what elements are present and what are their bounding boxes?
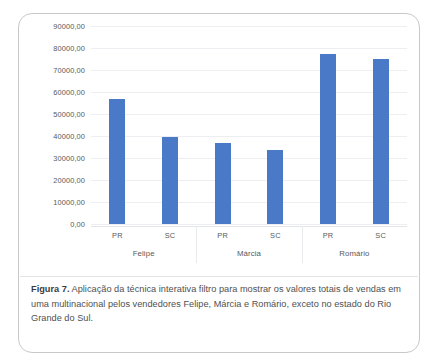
bar[interactable] (267, 150, 283, 224)
bar-slot (144, 26, 197, 224)
bar[interactable] (109, 99, 125, 224)
caption-divider (20, 276, 418, 277)
bar-series (91, 26, 407, 224)
x-axis-subcategory-label: PR (302, 226, 355, 243)
x-axis-category-label: Romário (302, 243, 407, 263)
y-axis: 90000,0080000,0070000,0060000,0050000,00… (31, 26, 89, 224)
y-axis-tick-label: 70000,00 (53, 66, 85, 75)
bar-slot (354, 26, 407, 224)
y-axis-tick-label: 30000,00 (53, 154, 85, 163)
figure-caption-text: Aplicação da técnica interativa filtro p… (31, 284, 401, 323)
y-axis-tick-label: 90000,00 (53, 22, 85, 31)
y-axis-tick-label: 50000,00 (53, 110, 85, 119)
bar[interactable] (320, 54, 336, 225)
figure-caption-label: Figura 7. (31, 284, 69, 294)
x-axis-subcategories: PRSCPRSCPRSC (91, 226, 407, 243)
bar[interactable] (373, 59, 389, 224)
x-axis-subcategory-label: SC (354, 226, 407, 243)
x-axis-subcategory-label: SC (249, 226, 302, 243)
x-axis-subcategory-label: PR (196, 226, 249, 243)
bar-slot (196, 26, 249, 224)
bar[interactable] (162, 137, 178, 224)
y-axis-tick-label: 0,00 (70, 220, 85, 229)
x-axis-category-label: Felipe (91, 243, 196, 263)
bar[interactable] (215, 143, 231, 224)
plot-area (91, 26, 407, 224)
plot-wrapper: 90000,0080000,0070000,0060000,0050000,00… (31, 26, 409, 266)
x-axis-subcategory-label: PR (91, 226, 144, 243)
figure-caption: Figura 7. Aplicação da técnica interativ… (31, 282, 407, 326)
x-axis-subcategory-label: SC (144, 226, 197, 243)
y-axis-tick-label: 80000,00 (53, 44, 85, 53)
bar-chart: 90000,0080000,0070000,0060000,0050000,00… (19, 14, 419, 276)
y-axis-tick-label: 60000,00 (53, 88, 85, 97)
x-axis-categories: FelipeMárciaRomário (91, 243, 407, 263)
bar-slot (91, 26, 144, 224)
y-axis-tick-label: 40000,00 (53, 132, 85, 141)
figure-card: 90000,0080000,0070000,0060000,0050000,00… (18, 13, 420, 353)
bar-slot (302, 26, 355, 224)
gridline (91, 224, 407, 225)
bar-slot (249, 26, 302, 224)
y-axis-tick-label: 20000,00 (53, 176, 85, 185)
y-axis-tick-label: 10000,00 (53, 198, 85, 207)
x-axis-category-label: Márcia (196, 243, 301, 263)
